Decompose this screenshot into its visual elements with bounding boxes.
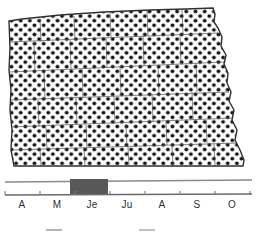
month-label-sep: S: [194, 199, 201, 210]
month-label-june: Je: [87, 199, 98, 210]
month-label-aug: A: [159, 199, 166, 210]
distribution-map: [0, 0, 261, 172]
season-band-top-rule: [5, 180, 252, 182]
legend-open-symbol-icon: [139, 229, 155, 231]
month-label-oct: O: [228, 199, 236, 210]
map-svg: [0, 0, 261, 172]
map-shaded-area: [0, 0, 261, 172]
legend-strip-cut-off: [0, 225, 261, 235]
legend-filled-symbol-icon: [46, 229, 62, 231]
figure-container: A M Je Ju A S O: [0, 0, 261, 235]
month-label-july: Ju: [122, 199, 133, 210]
month-label-apr: A: [19, 199, 26, 210]
occurrence-period-block: [70, 179, 108, 195]
month-label-may: M: [53, 199, 62, 210]
